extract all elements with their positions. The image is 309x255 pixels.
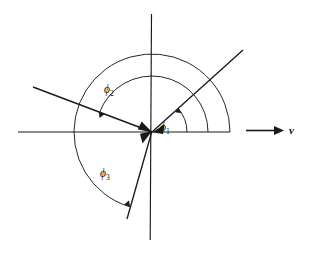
angle-diagram-svg: ϕ1 ϕ2 ϕ3 v (0, 0, 309, 255)
arcs-group (74, 54, 230, 207)
figure-container: ϕ1 ϕ2 ϕ3 v (0, 0, 309, 255)
ray-phi2-arrowhead (138, 122, 153, 133)
ray-phi3 (127, 131, 152, 219)
velocity-vector-arrowhead (274, 126, 284, 135)
rays-group (33, 50, 243, 219)
label-phi2: ϕ2 (104, 83, 114, 98)
axes-group (18, 14, 230, 240)
label-phi1: ϕ1 (160, 121, 170, 136)
arc-phi2 (99, 76, 208, 132)
label-phi3: ϕ3 (100, 167, 110, 182)
velocity-vector-group (246, 126, 284, 135)
y-axis (150, 14, 151, 240)
ray-phi2 (33, 87, 152, 132)
label-velocity-vector: v (289, 124, 294, 136)
arc-phi3 (74, 54, 230, 207)
